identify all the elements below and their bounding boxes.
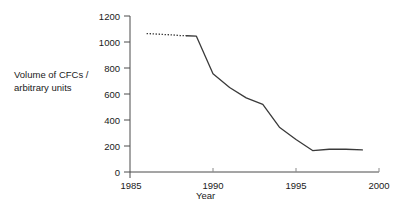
y-tick-label-400: 400 — [104, 115, 120, 126]
y-axis-title-line1: Volume of CFCs / — [14, 69, 88, 80]
y-tick-label-1200: 1200 — [99, 11, 120, 22]
y-axis-title-line2: arbitrary units — [14, 82, 72, 93]
cfc-series-dotted-segment — [147, 34, 187, 36]
y-tick-label-1000: 1000 — [99, 37, 120, 48]
y-axis-title: Volume of CFCs /arbitrary units — [14, 68, 114, 94]
y-tick-label-0: 0 — [115, 167, 120, 178]
y-axis-tick-labels: 1200 1000 800 600 400 200 0 — [99, 11, 120, 178]
x-tick-label-2000: 2000 — [368, 180, 389, 191]
x-tick-label-1995: 1995 — [285, 180, 306, 191]
x-tick-label-1985: 1985 — [120, 180, 141, 191]
x-axis-tick-labels: 1985 1990 1995 2000 — [120, 180, 389, 191]
cfc-series-solid-segment — [186, 36, 362, 151]
y-tick-label-200: 200 — [104, 141, 120, 152]
x-axis-ticks — [130, 168, 379, 178]
x-axis-title: Year — [196, 190, 215, 201]
data-series-group — [147, 34, 363, 151]
plot-svg: 1200 1000 800 600 400 200 0 1985 1990 19… — [0, 0, 408, 216]
y-axis-ticks — [124, 16, 130, 172]
cfc-volume-line-chart: Volume of CFCs /arbitrary units Year 120… — [0, 0, 408, 216]
